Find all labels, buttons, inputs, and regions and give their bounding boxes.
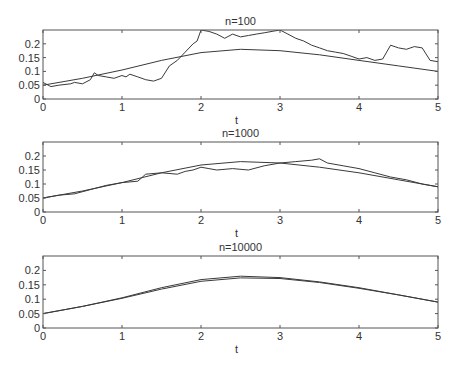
subplot-title: n=1000 bbox=[222, 127, 259, 139]
y-tick-label: 0.2 bbox=[25, 264, 40, 276]
x-tick-label: 5 bbox=[435, 214, 441, 226]
x-axis-label: t bbox=[235, 114, 238, 126]
y-tick-label: 0.1 bbox=[25, 178, 40, 190]
x-axis-label: t bbox=[235, 227, 238, 239]
x-tick-label: 3 bbox=[277, 101, 283, 113]
y-tick-label: 0 bbox=[34, 322, 40, 334]
x-tick-label: 3 bbox=[277, 330, 283, 342]
x-tick-label: 3 bbox=[277, 214, 283, 226]
series-exact bbox=[43, 162, 438, 198]
series-exact bbox=[43, 276, 438, 313]
subplot-title: n=10000 bbox=[219, 241, 262, 253]
y-tick-label: 0.15 bbox=[19, 164, 40, 176]
x-tick-label: 5 bbox=[435, 330, 441, 342]
x-tick-label: 2 bbox=[198, 214, 204, 226]
y-tick-label: 0.05 bbox=[19, 79, 40, 91]
y-tick-label: 0 bbox=[34, 206, 40, 218]
y-tick-label: 0.2 bbox=[25, 38, 40, 50]
x-tick-label: 1 bbox=[119, 101, 125, 113]
x-tick-label: 4 bbox=[356, 101, 362, 113]
y-tick-label: 0.05 bbox=[19, 192, 40, 204]
x-tick-label: 0 bbox=[40, 101, 46, 113]
x-tick-label: 2 bbox=[198, 101, 204, 113]
axes-frame bbox=[43, 142, 438, 212]
x-tick-label: 1 bbox=[119, 330, 125, 342]
y-tick-label: 0.15 bbox=[19, 279, 40, 291]
axes-frame bbox=[43, 30, 438, 99]
x-tick-label: 2 bbox=[198, 330, 204, 342]
y-tick-label: 0 bbox=[34, 93, 40, 105]
series-estimate bbox=[43, 159, 438, 198]
figure: n=10001234500.050.10.150.2tn=10000123450… bbox=[0, 0, 460, 366]
x-tick-label: 1 bbox=[119, 214, 125, 226]
x-tick-label: 0 bbox=[40, 214, 46, 226]
y-tick-label: 0.1 bbox=[25, 65, 40, 77]
series-estimate bbox=[43, 30, 438, 87]
subplot-3: n=1000001234500.050.10.150.2t bbox=[19, 241, 441, 355]
y-tick-label: 0.1 bbox=[25, 293, 40, 305]
y-tick-label: 0.15 bbox=[19, 52, 40, 64]
x-tick-label: 4 bbox=[356, 214, 362, 226]
series-exact bbox=[43, 49, 438, 85]
subplot-1: n=10001234500.050.10.150.2t bbox=[19, 15, 441, 126]
x-tick-label: 5 bbox=[435, 101, 441, 113]
x-tick-label: 0 bbox=[40, 330, 46, 342]
series-estimate bbox=[43, 278, 438, 314]
subplot-2: n=100001234500.050.10.150.2t bbox=[19, 127, 441, 239]
y-tick-label: 0.05 bbox=[19, 308, 40, 320]
x-tick-label: 4 bbox=[356, 330, 362, 342]
subplot-title: n=100 bbox=[225, 15, 256, 27]
y-tick-label: 0.2 bbox=[25, 150, 40, 162]
x-axis-label: t bbox=[235, 343, 238, 355]
